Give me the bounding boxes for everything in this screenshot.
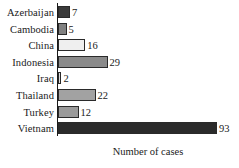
bar-value-label: 2 (63, 70, 68, 87)
bar (58, 6, 70, 18)
bar-row: China16 (0, 37, 239, 54)
bar-row: Azerbaijan7 (0, 4, 239, 21)
category-label: China (0, 37, 54, 54)
category-label: Cambodia (0, 21, 54, 38)
bar-value-label: 22 (98, 87, 109, 104)
bar-row: Vietnam93 (0, 120, 239, 137)
bar-chart: Azerbaijan7Cambodia5China16Indonesia29Ir… (0, 0, 239, 168)
bar-value-label: 12 (81, 104, 92, 121)
bar (58, 122, 217, 134)
category-label: Turkey (0, 104, 54, 121)
bar-value-label: 29 (110, 54, 121, 71)
bar-value-label: 93 (219, 120, 230, 137)
bar-row: Indonesia29 (0, 54, 239, 71)
bar-row: Thailand22 (0, 87, 239, 104)
category-label: Azerbaijan (0, 4, 54, 21)
category-label: Thailand (0, 87, 54, 104)
bar (58, 56, 108, 68)
bar-value-label: 5 (69, 21, 74, 38)
bar-row: Cambodia5 (0, 21, 239, 38)
bar (58, 89, 96, 101)
bar-value-label: 16 (87, 37, 98, 54)
bar-value-label: 7 (72, 4, 77, 21)
bar-row: Iraq2 (0, 70, 239, 87)
bar (58, 106, 79, 118)
plot-area: Azerbaijan7Cambodia5China16Indonesia29Ir… (0, 0, 239, 140)
category-label: Vietnam (0, 120, 54, 137)
category-label: Iraq (0, 70, 54, 87)
x-axis-title: Number of cases (57, 146, 239, 157)
bar (58, 23, 67, 35)
bar (58, 72, 61, 84)
bar (58, 39, 85, 51)
category-label: Indonesia (0, 54, 54, 71)
bar-row: Turkey12 (0, 104, 239, 121)
